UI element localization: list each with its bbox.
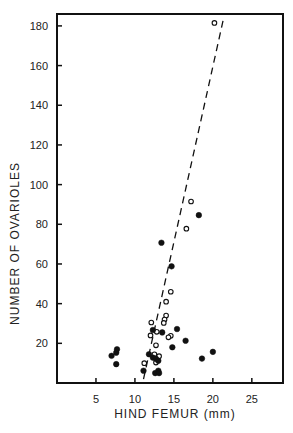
y-tick-label: 20 — [36, 337, 48, 349]
x-axis-title: HIND FEMUR (mm) — [114, 407, 236, 421]
open-data-point — [161, 321, 166, 326]
open-data-point — [154, 343, 159, 348]
regression-line — [144, 21, 223, 379]
y-tick-label: 80 — [36, 218, 48, 230]
filled-data-point — [196, 212, 202, 218]
filled-data-point — [183, 338, 189, 344]
filled-data-point — [150, 327, 156, 333]
open-data-point — [189, 199, 194, 204]
open-data-point — [184, 226, 189, 231]
open-data-point — [148, 333, 153, 338]
y-tick-label: 140 — [30, 99, 48, 111]
y-axis-title: NUMBER OF OVARIOLES — [8, 162, 22, 325]
x-tick-label: 15 — [168, 393, 180, 405]
plot-frame — [57, 14, 283, 383]
filled-data-point — [156, 358, 162, 364]
x-tick-label: 10 — [129, 393, 141, 405]
scatter-chart: 20406080100120140160180 510152025 HIND F… — [0, 0, 293, 433]
filled-data-point — [210, 349, 216, 355]
filled-data-point — [169, 264, 175, 270]
y-tick-label: 40 — [36, 298, 48, 310]
open-data-point — [168, 289, 173, 294]
y-tick-label: 100 — [30, 179, 48, 191]
filled-data-point — [159, 330, 165, 336]
filled-data-point — [114, 346, 120, 352]
x-tick-label: 20 — [207, 393, 219, 405]
y-tick-label: 120 — [30, 139, 48, 151]
x-tick-label: 25 — [246, 393, 258, 405]
x-tick-label: 5 — [93, 393, 99, 405]
open-data-point — [212, 21, 217, 26]
fit-line-group — [144, 21, 223, 379]
filled-data-point — [141, 368, 147, 374]
open-data-point — [149, 320, 154, 325]
filled-data-point — [199, 356, 205, 362]
filled-data-point — [113, 361, 119, 367]
filled-data-point — [174, 326, 180, 332]
open-data-point — [142, 361, 147, 366]
filled-data-point — [170, 344, 176, 350]
filled-data-point — [156, 370, 162, 376]
open-data-point — [166, 335, 171, 340]
open-data-point — [164, 299, 169, 304]
y-tick-label: 180 — [30, 20, 48, 32]
filled-data-point — [159, 240, 165, 246]
data-points — [109, 21, 217, 376]
y-tick-label: 60 — [36, 258, 48, 270]
y-tick-label: 160 — [30, 60, 48, 72]
